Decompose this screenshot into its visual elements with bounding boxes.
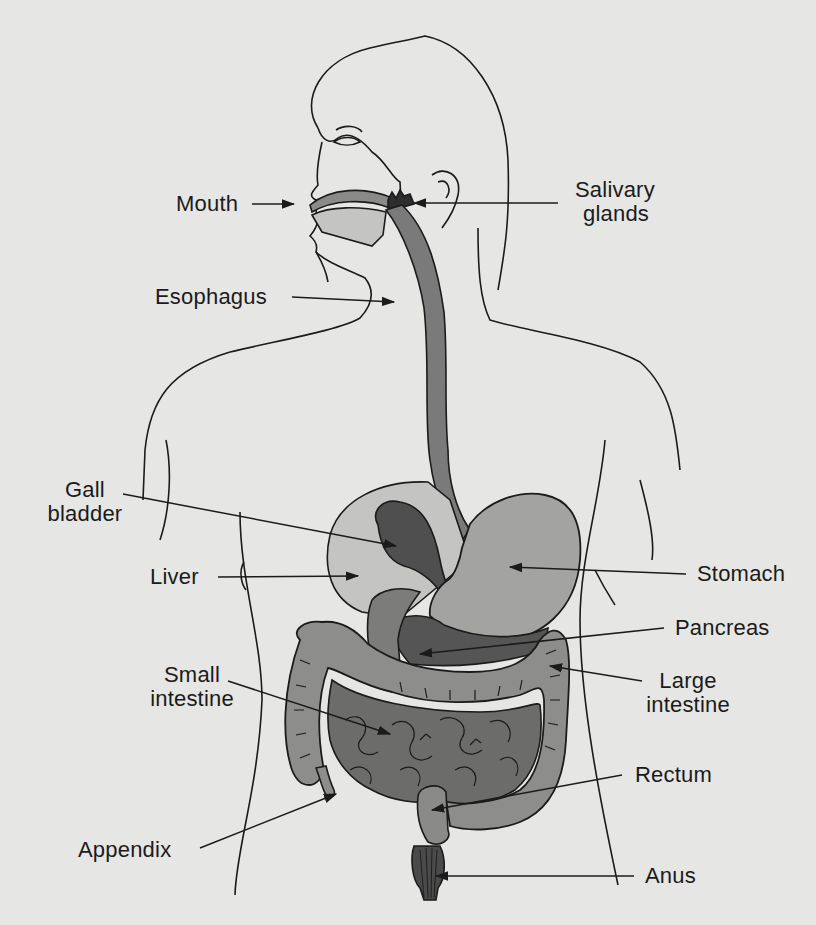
- label-gall-bladder: Gall bladder: [40, 478, 130, 526]
- appendix-leader: [200, 794, 336, 848]
- appendix: [316, 766, 334, 797]
- ear: [432, 171, 459, 228]
- label-gall-bladder-line1: Gall: [40, 478, 130, 502]
- label-small-intestine-line2: intestine: [150, 687, 234, 711]
- esophagus-leader: [292, 297, 394, 302]
- label-salivary-glands-line2: glands: [575, 202, 655, 226]
- label-pancreas: Pancreas: [675, 616, 770, 640]
- tongue: [312, 208, 386, 246]
- right-arm-inner: [640, 480, 653, 560]
- label-small-intestine: Small intestine: [150, 663, 234, 711]
- label-stomach: Stomach: [697, 562, 785, 586]
- neck-back: [478, 228, 680, 470]
- label-gall-bladder-line2: bladder: [40, 502, 130, 526]
- label-small-intestine-line1: Small: [150, 663, 234, 687]
- label-anus: Anus: [645, 864, 696, 888]
- right-torso: [580, 440, 618, 885]
- rectum: [417, 786, 448, 844]
- label-rectum: Rectum: [635, 763, 712, 787]
- label-mouth: Mouth: [176, 192, 238, 216]
- label-salivary-glands-line1: Salivary: [575, 178, 655, 202]
- liver-leader: [218, 576, 358, 577]
- left-shoulder: [143, 352, 230, 500]
- eyebrow: [336, 126, 362, 132]
- label-appendix: Appendix: [78, 838, 171, 862]
- label-salivary-glands: Salivary glands: [575, 178, 655, 226]
- label-large-intestine: Large intestine: [640, 669, 736, 717]
- label-liver: Liver: [150, 565, 199, 589]
- label-esophagus: Esophagus: [155, 285, 267, 309]
- left-torso: [235, 512, 262, 895]
- label-large-intestine-line1: Large: [640, 669, 736, 693]
- label-large-intestine-line2: intestine: [640, 693, 736, 717]
- left-arm-inner: [160, 440, 169, 540]
